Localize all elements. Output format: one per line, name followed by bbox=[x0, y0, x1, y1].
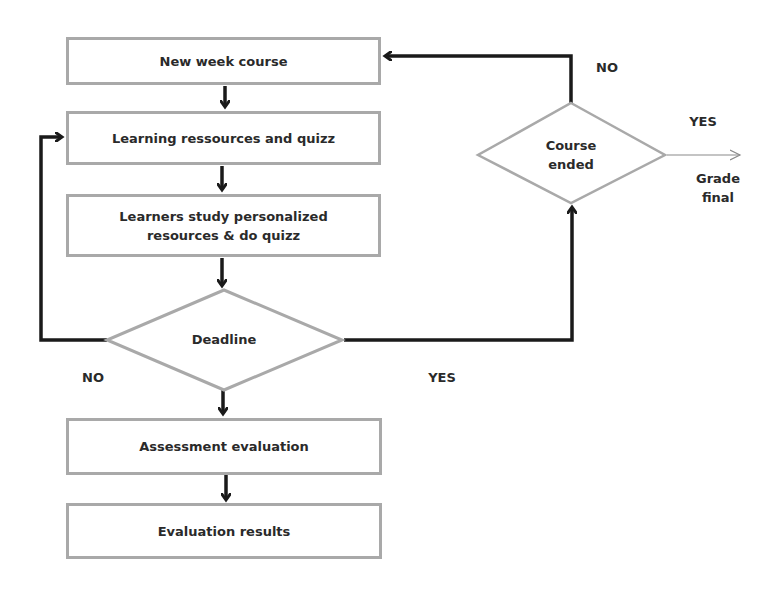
node-evaluation-results-label: Evaluation results bbox=[158, 522, 291, 541]
node-learning-resources: Learning ressources and quizz bbox=[66, 111, 381, 165]
node-learners-study: Learners study personalized resources & … bbox=[66, 194, 381, 257]
grade-final-line1: Grade bbox=[693, 169, 743, 188]
node-evaluation-results: Evaluation results bbox=[66, 503, 382, 559]
grade-final-label: Grade final bbox=[693, 169, 743, 207]
course-ended-line1: Course bbox=[531, 136, 611, 155]
course-ended-no-label: NO bbox=[592, 58, 622, 77]
deadline-no-label: NO bbox=[78, 368, 108, 387]
arrow-course-ended-no bbox=[386, 56, 571, 103]
node-assessment-evaluation: Assessment evaluation bbox=[66, 418, 382, 475]
node-new-week-course: New week course bbox=[66, 37, 381, 85]
deadline-yes-label: YES bbox=[422, 368, 462, 387]
course-ended-label: Course ended bbox=[531, 136, 611, 174]
course-ended-line2: ended bbox=[531, 155, 611, 174]
node-learners-study-line1: Learners study personalized bbox=[119, 207, 327, 226]
node-new-week-course-label: New week course bbox=[160, 52, 288, 71]
node-learning-resources-label: Learning ressources and quizz bbox=[112, 129, 335, 148]
course-ended-yes-label: YES bbox=[683, 112, 723, 131]
deadline-label: Deadline bbox=[164, 330, 284, 349]
node-learners-study-line2: resources & do quizz bbox=[147, 226, 300, 245]
grade-final-line2: final bbox=[693, 188, 743, 207]
node-assessment-evaluation-label: Assessment evaluation bbox=[139, 437, 309, 456]
